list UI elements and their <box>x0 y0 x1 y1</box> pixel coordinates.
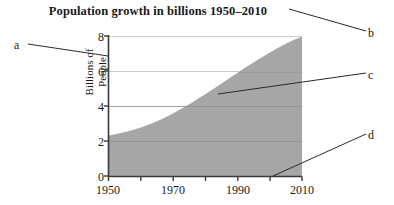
plot-svg <box>0 0 394 205</box>
callout-leader-a <box>28 44 108 56</box>
callout-leader-b <box>289 9 366 31</box>
chart-figure: Population growth in billions 1950–2010 … <box>0 0 394 205</box>
x-axis <box>108 177 302 182</box>
